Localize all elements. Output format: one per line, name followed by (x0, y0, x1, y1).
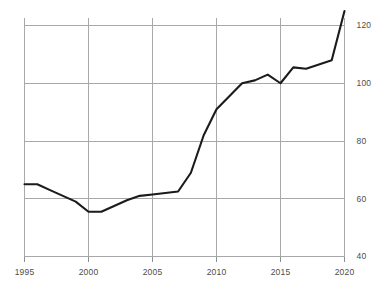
line-chart-figure: 406080100120 199520002005201020152020 (0, 0, 381, 288)
y-axis-label: 60 (357, 194, 367, 204)
y-axis-label: 80 (357, 136, 367, 146)
y-axis-tick-labels: 406080100120 (357, 20, 372, 261)
x-axis-label: 2005 (143, 267, 163, 277)
x-axis-label: 2015 (271, 267, 291, 277)
x-axis-label: 2010 (207, 267, 227, 277)
y-axis-label: 40 (357, 251, 367, 261)
x-axis-tick-labels: 199520002005201020152020 (15, 267, 355, 277)
axis-tick-marks (25, 257, 345, 262)
vertical-gridlines (25, 18, 345, 257)
x-axis-label: 1995 (15, 267, 35, 277)
y-axis-label: 120 (357, 20, 372, 30)
x-axis-label: 2000 (79, 267, 99, 277)
x-axis-label: 2020 (335, 267, 355, 277)
chart-canvas: 406080100120 199520002005201020152020 (0, 0, 381, 288)
y-axis-label: 100 (357, 78, 372, 88)
data-series-line (25, 11, 345, 212)
horizontal-gridlines (25, 26, 345, 257)
